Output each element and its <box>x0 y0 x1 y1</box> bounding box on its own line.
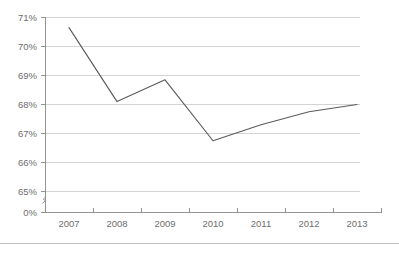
x-tick-label-2011: 2011 <box>251 218 271 229</box>
gridlines <box>45 18 360 192</box>
data-series-line <box>69 28 357 141</box>
y-tick-label-70: 70% <box>18 41 38 52</box>
y-tick-label-0: 0% <box>23 207 37 218</box>
x-tick-labels: 2007 2008 2009 2010 2011 2012 2013 <box>58 218 367 229</box>
y-tick-labels: 71% 70% 69% 68% 67% 66% 65% 0% <box>18 12 38 218</box>
x-tick-label-2008: 2008 <box>106 218 127 229</box>
chart-container: 71% 70% 69% 68% 67% 66% 65% 0% 2007 2008 <box>0 0 399 255</box>
x-tick-label-2012: 2012 <box>298 218 319 229</box>
y-tick-label-66: 66% <box>18 157 38 168</box>
y-tick-label-68: 68% <box>18 99 38 110</box>
x-tick-label-2013: 2013 <box>346 218 367 229</box>
y-tick-marks <box>41 18 46 213</box>
y-tick-label-71: 71% <box>18 12 38 23</box>
y-tick-label-65: 65% <box>18 186 38 197</box>
x-tick-marks <box>46 208 382 213</box>
x-tick-label-2007: 2007 <box>58 218 79 229</box>
line-chart: 71% 70% 69% 68% 67% 66% 65% 0% 2007 2008 <box>0 0 399 255</box>
y-tick-label-69: 69% <box>18 70 38 81</box>
x-tick-label-2010: 2010 <box>202 218 223 229</box>
y-tick-label-67: 67% <box>18 128 38 139</box>
x-tick-label-2009: 2009 <box>154 218 175 229</box>
